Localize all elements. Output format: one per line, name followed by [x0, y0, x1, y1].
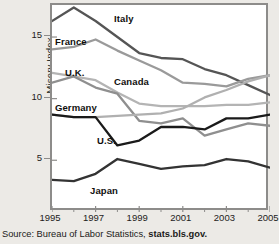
series-label-italy: Italy: [114, 13, 134, 24]
series-label-japan: Japan: [90, 185, 118, 196]
x-tick-label: 2001: [161, 212, 201, 223]
x-tick-label: 1995: [30, 212, 70, 223]
x-tick-label: 1999: [117, 212, 157, 223]
x-tick-label: 2003: [204, 212, 244, 223]
source-note: Source: Bureau of Labor Statistics, stat…: [2, 229, 207, 239]
series-label-france: France: [55, 36, 87, 47]
series-label-canada: Canada: [114, 76, 149, 87]
source-prefix: Source: Bureau of Labor Statistics,: [2, 229, 148, 239]
series-line-japan: [52, 159, 270, 181]
series-label-germany: Germany: [55, 102, 97, 113]
y-tick-label: 5: [20, 152, 42, 163]
x-tick-label: 1997: [74, 212, 114, 223]
plot-area: ItalyFranceU.K.CanadaGermanyU.S.Japan: [50, 3, 268, 210]
y-tick-label: 10: [20, 91, 42, 102]
series-label-uk: U.K.: [65, 67, 84, 78]
source-url[interactable]: stats.bls.gov.: [148, 229, 207, 239]
figure-misery-index: Misery Index 51015 199519971999200120032…: [0, 0, 279, 244]
y-tick-label: 15: [20, 29, 42, 40]
x-tick-label: 2005: [248, 212, 279, 223]
series-line-us: [52, 115, 270, 146]
series-label-us: U.S.: [97, 135, 116, 146]
